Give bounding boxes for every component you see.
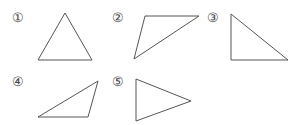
figures-drawing xyxy=(0,0,303,125)
triangle-2 xyxy=(134,16,199,59)
triangle-4 xyxy=(38,81,98,117)
triangle-figures-sheet: ① ② ③ ④ ⑤ xyxy=(0,0,303,125)
triangle-1 xyxy=(38,13,92,60)
triangle-3 xyxy=(231,14,288,60)
triangle-5 xyxy=(136,79,191,121)
